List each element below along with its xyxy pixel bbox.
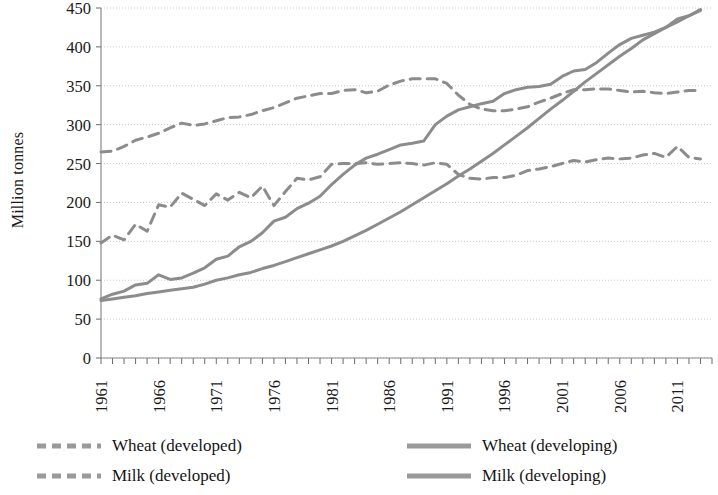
series-line-wheat-developed — [101, 146, 700, 242]
data-series-group — [101, 10, 700, 301]
gridlines-group — [101, 8, 712, 358]
chart-container: Million tonnes 0501001502002503003504004… — [0, 0, 718, 495]
legend-label: Wheat (developing) — [482, 436, 617, 456]
y-axis-tick-label: 450 — [66, 0, 91, 18]
x-axis-tick-label: 1996 — [495, 380, 514, 413]
y-axis-tick-label: 300 — [66, 116, 91, 135]
legend-item-milk-developed[interactable]: Milk (developed) — [36, 462, 231, 490]
x-axis-tick-label: 2006 — [611, 380, 630, 413]
y-axis-tick-label: 150 — [66, 232, 91, 251]
axis-lines-group — [101, 8, 712, 358]
x-axis-tick-label: 1966 — [150, 380, 169, 413]
y-axis-tick-label: 400 — [66, 38, 91, 57]
legend-item-milk-developing[interactable]: Milk (developing) — [406, 462, 606, 490]
y-axis-tick-label: 50 — [75, 310, 92, 329]
x-axis-tick-label: 1981 — [323, 380, 342, 413]
y-axis-ticks-group — [96, 8, 101, 358]
x-axis-tick-label: 1961 — [92, 380, 111, 413]
legend-swatch-solid-icon — [406, 439, 472, 453]
y-axis-tick-label: 0 — [83, 349, 91, 368]
legend-swatch-dashed-icon — [36, 469, 102, 483]
x-axis-tick-label: 2001 — [553, 380, 572, 413]
x-axis-tick-label: 1976 — [265, 380, 284, 413]
x-axis-tick-label: 1991 — [438, 380, 457, 413]
legend-label: Milk (developed) — [112, 466, 231, 486]
series-line-milk-developed — [101, 79, 700, 152]
legend-label: Milk (developing) — [482, 466, 606, 486]
legend-item-wheat-developed[interactable]: Wheat (developed) — [36, 432, 242, 460]
chart-plot-area: 050100150200250300350400450 196119661971… — [0, 0, 718, 430]
y-axis-tick-label: 100 — [66, 271, 91, 290]
series-line-milk-developing — [101, 10, 700, 300]
y-axis-tick-label: 250 — [66, 155, 91, 174]
legend-swatch-dashed-icon — [36, 439, 102, 453]
legend-label: Wheat (developed) — [112, 436, 242, 456]
legend-swatch-solid-icon — [406, 469, 472, 483]
chart-legend: Wheat (developed) Milk (developed) Wheat… — [30, 432, 700, 492]
legend-item-wheat-developing[interactable]: Wheat (developing) — [406, 432, 617, 460]
y-axis-tick-label: 200 — [66, 193, 91, 212]
x-axis-tick-label: 1986 — [380, 380, 399, 413]
y-axis-tick-label: 350 — [66, 77, 91, 96]
x-axis-tick-labels-group: 1961196619711976198119861991199620012006… — [92, 380, 687, 413]
x-axis-tick-label: 2011 — [668, 380, 687, 412]
y-axis-tick-labels-group: 050100150200250300350400450 — [66, 0, 91, 368]
x-axis-tick-label: 1971 — [207, 380, 226, 413]
x-axis-minor-ticks-group — [101, 358, 712, 364]
series-line-wheat-developing — [101, 10, 700, 299]
